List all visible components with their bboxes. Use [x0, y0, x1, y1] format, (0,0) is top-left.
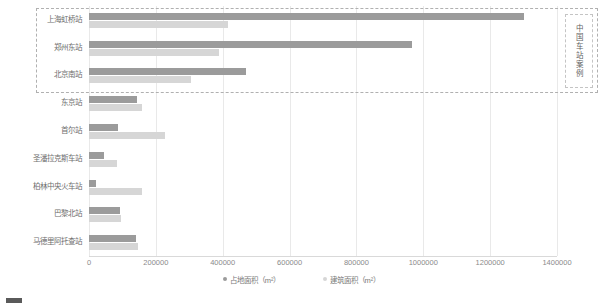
bar-land-area [89, 68, 246, 75]
china-cases-label: 中国车站案例 [565, 14, 593, 88]
y-axis-label-3: 东京站 [61, 98, 82, 108]
bar-building-area [89, 160, 117, 167]
x-tick-label: 200000 [143, 258, 168, 267]
bar-row [89, 200, 557, 228]
y-axis-label-8: 马德里阿托查站 [33, 237, 82, 247]
plot-area [89, 6, 557, 256]
bar-building-area [89, 188, 142, 195]
y-axis-label-1: 郑州东站 [54, 43, 82, 53]
x-tick-label: 1200000 [476, 258, 505, 267]
chart-legend: 占地面积（m²）建筑面积（m²） [0, 272, 603, 286]
bar-row [89, 228, 557, 256]
x-tick-label: 1400000 [542, 258, 571, 267]
y-axis-label-6: 柏林中央火车站 [33, 182, 82, 192]
bar-row [89, 89, 557, 117]
legend-label: 建筑面积（m²） [330, 274, 381, 285]
bar-row [89, 6, 557, 34]
y-axis-label-2: 北京南站 [54, 70, 82, 80]
y-axis-label-7: 巴黎北站 [54, 209, 82, 219]
bar-land-area [89, 41, 412, 48]
x-axis-tick-labels: 0200000400000600000800000100000012000001… [0, 258, 603, 270]
legend-label: 占地面积（m²） [230, 274, 281, 285]
bar-building-area [89, 215, 121, 222]
bar-building-area [89, 132, 165, 139]
x-tick-label: 1000000 [409, 258, 438, 267]
legend-swatch-icon [223, 277, 227, 281]
bar-building-area [89, 76, 191, 83]
x-tick-label: 0 [87, 258, 91, 267]
bar-row [89, 117, 557, 145]
x-tick-label: 800000 [344, 258, 369, 267]
bar-row [89, 34, 557, 62]
bar-building-area [89, 49, 219, 56]
bar-rows [89, 6, 557, 256]
gridline [557, 6, 558, 256]
bar-building-area [89, 21, 228, 28]
bar-row [89, 173, 557, 201]
bar-land-area [89, 152, 104, 159]
y-axis-label-0: 上海虹桥站 [47, 15, 82, 25]
bar-row [89, 62, 557, 90]
x-tick-label: 600000 [277, 258, 302, 267]
bar-land-area [89, 13, 524, 20]
y-axis-category-labels: 上海虹桥站郑州东站北京南站东京站首尔站圣潘拉克斯车站柏林中央火车站巴黎北站马德里… [0, 6, 86, 256]
legend-item-1[interactable]: 建筑面积（m²） [323, 274, 381, 285]
bar-land-area [89, 124, 118, 131]
bar-building-area [89, 104, 142, 111]
figure-caption [6, 298, 26, 303]
caption-badge-icon [6, 298, 22, 303]
bar-row [89, 145, 557, 173]
x-axis-line [89, 256, 557, 257]
x-tick-label: 400000 [210, 258, 235, 267]
legend-swatch-icon [323, 277, 327, 281]
bar-land-area [89, 235, 136, 242]
bar-land-area [89, 180, 96, 187]
bar-land-area [89, 96, 137, 103]
bar-building-area [89, 243, 138, 250]
legend-item-0[interactable]: 占地面积（m²） [223, 274, 281, 285]
y-axis-label-5: 圣潘拉克斯车站 [33, 154, 82, 164]
bar-land-area [89, 207, 120, 214]
y-axis-label-4: 首尔站 [61, 126, 82, 136]
